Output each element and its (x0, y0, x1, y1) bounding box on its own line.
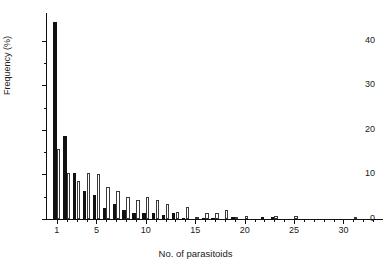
bar-expected (225, 210, 228, 219)
x-axis-minor-tick (136, 219, 137, 222)
bar-expected (57, 149, 60, 219)
bar-expected (156, 200, 159, 219)
x-axis-major-tick (146, 219, 147, 224)
x-axis-tick-label: 5 (94, 225, 99, 235)
y-axis-major-tick (42, 85, 47, 86)
x-axis-minor-tick (314, 219, 315, 222)
x-axis-minor-tick (284, 219, 285, 222)
bar-expected (126, 197, 129, 219)
y-axis-tick-label: 40 (365, 36, 375, 45)
x-axis-minor-tick (264, 219, 265, 222)
x-axis-minor-tick (334, 219, 335, 222)
x-axis-minor-tick (185, 219, 186, 222)
x-axis-major-tick (96, 219, 97, 224)
x-axis-minor-tick (225, 219, 226, 222)
x-axis-tick-label: 10 (141, 225, 151, 235)
x-axis-minor-tick (255, 219, 256, 222)
x-axis-minor-tick (77, 219, 78, 222)
bar-expected (77, 181, 80, 219)
x-axis-tick-label: 1 (54, 225, 59, 235)
x-axis-major-tick (57, 219, 58, 224)
x-axis-tick-label: 25 (289, 225, 299, 235)
y-axis-major-tick (42, 219, 47, 220)
bar-expected (67, 173, 70, 219)
x-axis-minor-tick (363, 219, 364, 222)
x-axis-minor-tick (175, 219, 176, 222)
bar-expected (97, 174, 100, 219)
y-axis-tick-label: 10 (365, 169, 375, 178)
bar-expected (116, 191, 119, 219)
y-axis-major-tick (42, 174, 47, 175)
bar-expected (87, 173, 90, 219)
x-axis-title: No. of parasitoids (0, 248, 391, 259)
bar-expected (146, 197, 149, 219)
x-axis-minor-tick (106, 219, 107, 222)
bar-expected (176, 212, 179, 219)
x-axis-minor-tick (274, 219, 275, 222)
y-axis-tick-label: 20 (365, 125, 375, 134)
y-axis-title: Frequency (%) (2, 74, 12, 88)
x-axis-tick-label: 30 (338, 225, 348, 235)
y-axis-minor-tick (44, 152, 47, 153)
y-axis-minor-tick (44, 197, 47, 198)
y-axis-tick-label: 30 (365, 80, 375, 89)
x-axis-minor-tick (304, 219, 305, 222)
x-axis-minor-tick (87, 219, 88, 222)
x-axis-major-tick (195, 219, 196, 224)
x-axis-minor-tick (353, 219, 354, 222)
chart-figure: Frequency (%) No. of parasitoids 0102030… (0, 0, 391, 271)
y-axis-minor-tick (44, 108, 47, 109)
x-axis-minor-tick (126, 219, 127, 222)
x-axis-minor-tick (235, 219, 236, 222)
x-axis-tick-label: 15 (190, 225, 200, 235)
x-axis-major-tick (294, 219, 295, 224)
bar-expected (136, 200, 139, 219)
y-axis-minor-tick (44, 63, 47, 64)
x-axis-minor-tick (373, 219, 374, 222)
x-axis-major-tick (343, 219, 344, 224)
plot-area: 010203040 151015202530 (47, 14, 383, 219)
x-axis-minor-tick (324, 219, 325, 222)
y-axis-major-tick (42, 41, 47, 42)
x-axis-minor-tick (205, 219, 206, 222)
x-axis-tick-label: 20 (240, 225, 250, 235)
bar-expected (106, 187, 109, 219)
x-axis-title-label: No. of parasitoids (159, 248, 233, 259)
bar-expected (186, 207, 189, 219)
x-axis-minor-tick (67, 219, 68, 222)
x-axis-minor-tick (166, 219, 167, 222)
x-axis-minor-tick (116, 219, 117, 222)
y-axis-major-tick (42, 130, 47, 131)
bar-expected (166, 204, 169, 219)
x-axis-minor-tick (156, 219, 157, 222)
x-axis-major-tick (245, 219, 246, 224)
y-axis-title-label: Frequency (%) (2, 81, 12, 95)
x-axis-minor-tick (215, 219, 216, 222)
